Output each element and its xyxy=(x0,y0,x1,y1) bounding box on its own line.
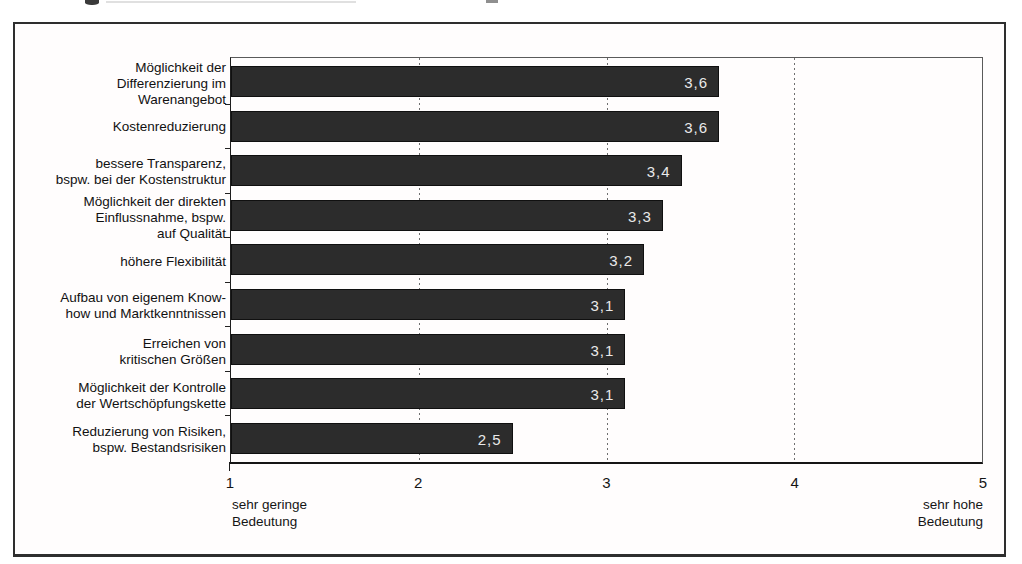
bar-row: 3,1 xyxy=(231,334,982,365)
x-tick-1: 1 xyxy=(226,474,234,491)
bar-row: 3,6 xyxy=(231,66,982,97)
y-axis-tick xyxy=(225,371,231,372)
figure-frame: Möglichkeit der Differenzierung im Waren… xyxy=(13,22,1006,557)
bar-value-label: 3,6 xyxy=(684,112,708,143)
axis-min-description: sehr geringe Bedeutung xyxy=(232,496,307,530)
y-axis-tick xyxy=(225,282,231,283)
bar-row: 3,6 xyxy=(231,111,982,142)
bar-value-label: 3,1 xyxy=(590,379,614,410)
category-label: Möglichkeit der Kontrolle der Wertschöpf… xyxy=(23,380,226,412)
bar-value-label: 3,6 xyxy=(684,67,708,98)
category-label: Erreichen von kritischen Größen xyxy=(23,336,226,368)
bar-differenzierung: 3,6 xyxy=(231,66,719,97)
y-axis-tick xyxy=(225,415,231,416)
x-tick-5: 5 xyxy=(979,474,987,491)
bar-flexibilitaet: 3,2 xyxy=(231,244,644,275)
y-axis-tick xyxy=(225,148,231,149)
category-label: Möglichkeit der Differenzierung im Waren… xyxy=(23,60,226,108)
bar-knowhow: 3,1 xyxy=(231,289,625,320)
category-label: Möglichkeit der direkten Einflussnahme, … xyxy=(23,194,226,242)
category-label: bessere Transparenz, bspw. bei der Koste… xyxy=(23,156,226,188)
category-label: Reduzierung von Risiken, bspw. Bestandsr… xyxy=(23,424,226,456)
bar-row: 3,2 xyxy=(231,244,982,275)
y-axis-tick xyxy=(225,326,231,327)
plot-area: 3,6 3,6 3,4 3,3 3,2 xyxy=(230,57,983,464)
bar-value-label: 3,4 xyxy=(647,156,671,187)
bar-kritische-groessen: 3,1 xyxy=(231,334,625,365)
y-axis-tick xyxy=(225,193,231,194)
y-axis-stub xyxy=(229,462,230,471)
bar-value-label: 3,2 xyxy=(609,245,633,276)
bar-row: 3,3 xyxy=(231,200,982,231)
bar-row: 3,4 xyxy=(231,155,982,186)
bar-risiken: 2,5 xyxy=(231,423,513,454)
bar-einflussnahme: 3,3 xyxy=(231,200,663,231)
bar-kontrolle: 3,1 xyxy=(231,378,625,409)
x-tick-3: 3 xyxy=(602,474,610,491)
y-axis-tick xyxy=(225,237,231,238)
bar-row: 2,5 xyxy=(231,423,982,454)
cropped-text-artifact xyxy=(106,1,356,3)
bar-row: 3,1 xyxy=(231,378,982,409)
cropped-text-artifact xyxy=(486,0,498,3)
bar-value-label: 3,3 xyxy=(628,201,652,232)
bar-transparenz: 3,4 xyxy=(231,155,682,186)
bar-value-label: 3,1 xyxy=(590,290,614,321)
category-label: Aufbau von eigenem Know- how und Marktke… xyxy=(23,290,226,322)
category-label: höhere Flexibilität xyxy=(23,254,226,270)
x-tick-4: 4 xyxy=(791,474,799,491)
bar-value-label: 2,5 xyxy=(478,424,502,455)
x-axis-tick-labels: 1 2 3 4 5 xyxy=(230,474,983,494)
axis-max-description: sehr hohe Bedeutung xyxy=(918,496,983,530)
bar-kostenreduzierung: 3,6 xyxy=(231,111,719,142)
x-tick-2: 2 xyxy=(414,474,422,491)
cropped-text-artifact xyxy=(85,0,99,5)
y-axis-tick xyxy=(225,104,231,105)
bar-value-label: 3,1 xyxy=(590,335,614,366)
bar-row: 3,1 xyxy=(231,289,982,320)
category-label: Kostenreduzierung xyxy=(23,119,226,135)
